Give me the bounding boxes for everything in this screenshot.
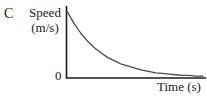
speed-time-graph-figure: C Speed (m/s) 0 Time (s)	[0, 0, 207, 98]
x-axis-title: Time (s)	[157, 80, 201, 94]
exponential-decay-curve	[67, 12, 203, 77]
origin-label: 0	[55, 69, 62, 82]
